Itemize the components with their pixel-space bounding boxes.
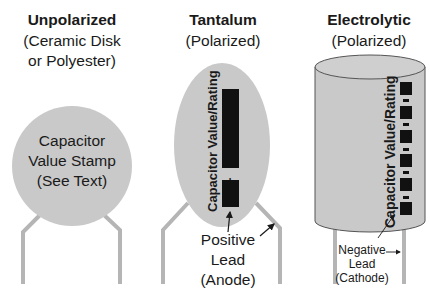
unpolarized-subtitle-line2: or Polyester) [28,52,116,69]
unpolarized-subtitle-line1: (Ceramic Disk [23,32,121,49]
positive-lead-arrow-right-icon [260,224,274,236]
disk-label-line1: Capacitor [39,132,105,149]
electrolytic-subtitle: (Polarized) [332,32,407,49]
negative-lead-label-line2: Lead [349,257,376,271]
disk-label-line3: (See Text) [37,172,107,189]
tantalum-right-lead [256,203,280,284]
tantalum-positive-bar [222,180,239,207]
negative-lead-label-line3: (Cathode) [335,271,388,285]
negative-lead-label-line1: Negative [338,243,386,257]
electrolytic-title: Electrolytic [327,11,411,28]
capacitor-types-diagram: Unpolarized (Ceramic Disk or Polyester) … [0,0,430,291]
unpolarized-title: Unpolarized [28,11,117,28]
disk-label-line2: Value Stamp [28,152,116,169]
tantalum-section: Tantalum (Polarized) Capacitor Value/Rat… [163,11,280,288]
unpolarized-left-lead [23,215,40,284]
positive-lead-label-line3: (Anode) [200,271,255,288]
electrolytic-can-top [315,55,425,79]
unpolarized-section: Unpolarized (Ceramic Disk or Polyester) … [12,11,132,284]
tantalum-title: Tantalum [189,11,257,28]
electrolytic-section: Electrolytic (Polarized) Capacitor Value… [315,11,425,285]
tantalum-rating-bar [222,89,239,168]
tantalum-left-lead [163,203,188,284]
unpolarized-right-lead [104,215,120,284]
electrolytic-vertical-label: Capacitor Value/Rating [382,76,398,228]
tantalum-subtitle: (Polarized) [186,32,261,49]
positive-lead-label-line1: Positive [201,231,255,248]
positive-lead-label-line2: Lead [211,251,245,268]
tantalum-vertical-label: Capacitor Value/Rating [205,70,220,212]
